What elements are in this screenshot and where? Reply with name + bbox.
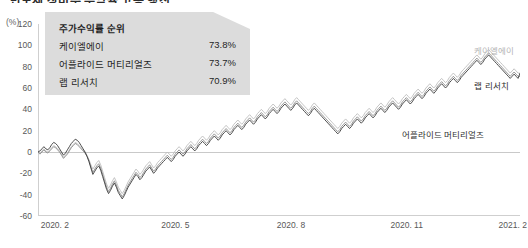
rank-name: 케이엘에이 — [59, 39, 104, 53]
y-axis-tick: 100 — [18, 40, 32, 50]
series-label-kla: 케이엘에이 — [474, 44, 514, 56]
y-axis-tick: 40 — [23, 104, 32, 114]
series-label-amat: 어플라이드 머티리얼즈 — [402, 128, 484, 140]
y-axis-tick: -20 — [20, 168, 32, 178]
callout-title: 주가수익률 순위 — [59, 21, 125, 35]
rank-row: 랩 리서치 70.9% — [59, 75, 239, 91]
y-axis: 120100806040200-20-40-60 — [0, 0, 38, 248]
chart-headline: 반도체 장비주 수익률 고공 행진 — [10, 0, 510, 3]
x-axis-tick: 2020. 8 — [277, 220, 305, 230]
x-axis-tick: 2020. 2 — [41, 220, 69, 230]
y-axis-tick: 20 — [23, 126, 32, 136]
y-axis-tick: 120 — [18, 19, 32, 29]
ranking-callout-box: 주가수익률 순위 케이엘에이 73.8% 어플라이드 머티리얼즈 73.7% 랩… — [45, 12, 250, 95]
rank-value: 73.7% — [209, 57, 236, 68]
series-label-lam: 랩 리서치 — [474, 79, 508, 91]
y-axis-tick: -40 — [20, 190, 32, 200]
rank-row: 케이엘에이 73.8% — [59, 39, 239, 55]
semiconductor-equipment-returns-chart: 반도체 장비주 수익률 고공 행진 (%) 120100806040200-20… — [0, 0, 528, 248]
x-axis-tick: 2021. 2 — [499, 220, 527, 230]
rank-value: 73.8% — [209, 39, 236, 50]
x-axis: 2020. 22020. 52020. 82020. 112021. 2 — [0, 220, 528, 240]
y-axis-tick: 0 — [27, 147, 32, 157]
rank-row: 어플라이드 머티리얼즈 73.7% — [59, 57, 239, 73]
y-axis-tick: 60 — [23, 83, 32, 93]
y-axis-tick: 80 — [23, 62, 32, 72]
x-axis-tick: 2020. 11 — [390, 220, 422, 230]
rank-name: 어플라이드 머티리얼즈 — [59, 57, 152, 71]
rank-name: 랩 리서치 — [59, 75, 98, 89]
x-axis-tick: 2020. 5 — [161, 220, 189, 230]
rank-value: 70.9% — [209, 75, 236, 86]
